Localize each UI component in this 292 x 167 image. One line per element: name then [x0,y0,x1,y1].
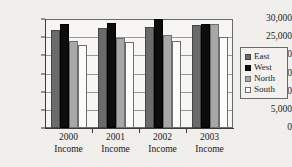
legend-swatch-west-icon [245,65,251,71]
x-label-measure: Income [186,144,233,156]
bar-south-2001 [125,42,134,128]
legend-swatch-east-icon [245,54,251,60]
bar-east-2000 [51,30,60,128]
x-label-year: 2003 [200,132,219,142]
legend-item-east[interactable]: East [245,51,284,62]
legend-item-north[interactable]: North [245,73,284,84]
x-axis-tick-label: 2000Income [45,132,92,155]
legend-item-west[interactable]: West [245,62,284,73]
bar-east-2002 [145,27,154,128]
bar-north-2002 [163,35,172,128]
x-label-measure: Income [139,144,186,156]
chart-legend: EastWestNorthSouth [240,47,288,99]
legend-swatch-north-icon [245,76,251,82]
bar-group [92,19,139,128]
x-axis-tick-label: 2003Income [186,132,233,155]
bar-north-2001 [116,38,125,128]
bar-west-2000 [60,24,69,128]
bar-west-2003 [201,24,210,128]
legend-label: West [254,63,272,72]
y-axis-tick-label: 5,000 [250,105,292,115]
bar-north-2000 [69,41,78,128]
bar-west-2001 [107,23,116,128]
x-label-year: 2002 [153,132,172,142]
legend-swatch-south-icon [245,87,251,93]
bar-west-2002 [154,19,163,128]
legend-item-south[interactable]: South [245,84,284,95]
legend-label: East [254,52,270,61]
bar-group [45,19,92,128]
x-label-year: 2000 [59,132,78,142]
bar-east-2001 [98,28,107,128]
y-axis-tick-label: 30,000 [250,14,292,24]
x-label-measure: Income [45,144,92,156]
bar-north-2003 [210,24,219,128]
legend-label: North [254,74,275,83]
bar-south-2000 [78,45,87,128]
bar-group [186,19,233,128]
y-axis-tick-label: 25,000 [250,32,292,42]
bar-group [139,19,186,128]
x-label-year: 2001 [106,132,125,142]
bar-east-2003 [192,25,201,128]
bar-south-2002 [172,41,181,128]
bar-chart: 05,00010,00015,00020,00025,00030,000 200… [0,0,292,167]
bar-south-2003 [219,37,228,128]
y-axis-tick-label: 0 [250,123,292,133]
x-label-measure: Income [92,144,139,156]
x-axis-tick-label: 2001Income [92,132,139,155]
x-axis-tick-label: 2002Income [139,132,186,155]
legend-label: South [254,85,275,94]
